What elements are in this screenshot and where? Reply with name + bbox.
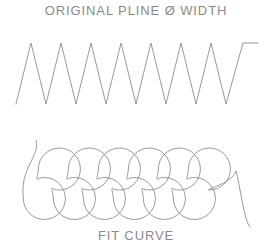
- figure-page: ORIGINAL PLINE Ø WIDTH FIT CURVE: [0, 0, 272, 247]
- fit-curve-loops: [23, 140, 250, 227]
- technical-drawing-figure: [0, 0, 272, 247]
- caption-fit-curve: FIT CURVE: [0, 228, 272, 243]
- original-polyline-zigzag: [16, 43, 258, 104]
